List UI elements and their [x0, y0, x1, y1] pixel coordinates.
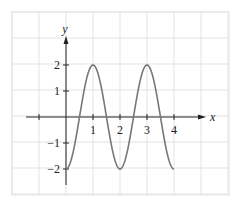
- grid: [12, 12, 229, 195]
- y-tick-label: 1: [54, 84, 60, 98]
- y-axis-label: y: [61, 22, 68, 36]
- y-tick-label: −2: [47, 162, 60, 176]
- x-tick-label: 3: [144, 123, 150, 137]
- x-tick-label: 1: [90, 123, 96, 137]
- chart: 123421−1−2xy: [0, 0, 239, 209]
- x-tick-label: 2: [117, 123, 123, 137]
- y-tick-label: −1: [47, 136, 60, 150]
- y-tick-label: 2: [54, 58, 60, 72]
- x-tick-label: 4: [171, 123, 177, 137]
- x-axis-arrow-icon: [198, 115, 206, 120]
- x-axis-label: x: [209, 110, 216, 124]
- y-axis-arrow-icon: [64, 36, 69, 44]
